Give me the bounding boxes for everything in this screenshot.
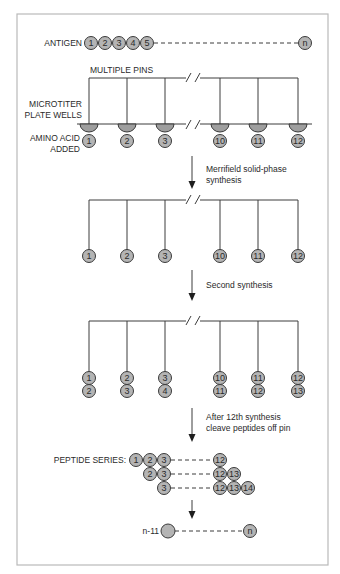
microtiter-label-2: PLATE WELLS	[25, 110, 83, 120]
svg-text:4: 4	[162, 386, 167, 396]
svg-text:2: 2	[147, 455, 152, 465]
antigen-end-residue: n	[299, 37, 312, 50]
svg-text:1: 1	[86, 251, 91, 261]
svg-text:12: 12	[293, 251, 303, 261]
svg-text:1: 1	[133, 455, 138, 465]
svg-text:11: 11	[215, 386, 224, 396]
svg-text:10: 10	[215, 373, 225, 383]
svg-text:13: 13	[293, 386, 303, 396]
peptide-synthesis-diagram: ANTIGEN 1 2 3 4 5 n MULTIPLE PINS MICROT…	[0, 0, 340, 574]
svg-text:5: 5	[144, 38, 149, 48]
microtiter-label-1: MICROTITER	[29, 99, 82, 109]
svg-text:n: n	[302, 38, 307, 48]
step-3-label-1: After 12th synthesis	[206, 412, 281, 422]
svg-text:3: 3	[161, 469, 166, 479]
svg-text:12: 12	[215, 483, 225, 493]
amino-acid-label-1: AMINO ACID	[30, 133, 80, 143]
svg-text:n: n	[247, 526, 252, 536]
svg-text:3: 3	[162, 251, 167, 261]
svg-text:12: 12	[215, 469, 225, 479]
svg-text:4: 4	[130, 38, 135, 48]
step-1-label-1: Merrifield solid-phase	[206, 164, 287, 174]
svg-text:3: 3	[162, 373, 167, 383]
svg-text:11: 11	[253, 251, 262, 261]
svg-text:3: 3	[161, 455, 166, 465]
n-minus-11-label: n-11	[143, 526, 160, 536]
start-residue	[161, 524, 175, 538]
amino-acid-label-2: ADDED	[50, 144, 80, 154]
svg-text:1: 1	[88, 38, 93, 48]
svg-text:12: 12	[293, 136, 303, 146]
svg-text:2: 2	[124, 373, 129, 383]
antigen-label: ANTIGEN	[44, 38, 82, 48]
svg-text:3: 3	[161, 483, 166, 493]
svg-text:2: 2	[147, 469, 152, 479]
step-3-label-2: cleave peptides off pin	[206, 423, 291, 433]
svg-text:12: 12	[253, 386, 263, 396]
svg-text:3: 3	[124, 386, 129, 396]
step-1-label-2: synthesis	[206, 175, 241, 185]
svg-text:2: 2	[102, 38, 107, 48]
svg-text:2: 2	[124, 136, 129, 146]
residue: 4	[127, 37, 140, 50]
svg-text:1: 1	[86, 373, 91, 383]
svg-text:3: 3	[116, 38, 121, 48]
svg-text:10: 10	[215, 251, 225, 261]
step-2-label: Second synthesis	[206, 280, 273, 290]
final-end-residue: n	[244, 525, 257, 538]
svg-text:13: 13	[229, 483, 239, 493]
residue: 5	[141, 37, 154, 50]
svg-text:13: 13	[229, 469, 239, 479]
svg-text:10: 10	[215, 136, 225, 146]
residue: 3	[113, 37, 126, 50]
svg-text:14: 14	[243, 483, 253, 493]
svg-text:1: 1	[86, 136, 91, 146]
svg-text:11: 11	[253, 136, 262, 146]
svg-text:12: 12	[293, 373, 303, 383]
svg-text:11: 11	[253, 373, 262, 383]
svg-text:2: 2	[86, 386, 91, 396]
residue: 2	[99, 37, 112, 50]
svg-text:12: 12	[215, 455, 225, 465]
multiple-pins-label: MULTIPLE PINS	[90, 65, 153, 75]
peptide-series-label: PEPTIDE SERIES:	[54, 455, 126, 465]
figure-frame	[17, 14, 328, 565]
svg-text:2: 2	[124, 251, 129, 261]
antigen-residues: 1 2 3 4 5	[85, 37, 154, 50]
svg-text:3: 3	[162, 136, 167, 146]
residue: 1	[85, 37, 98, 50]
